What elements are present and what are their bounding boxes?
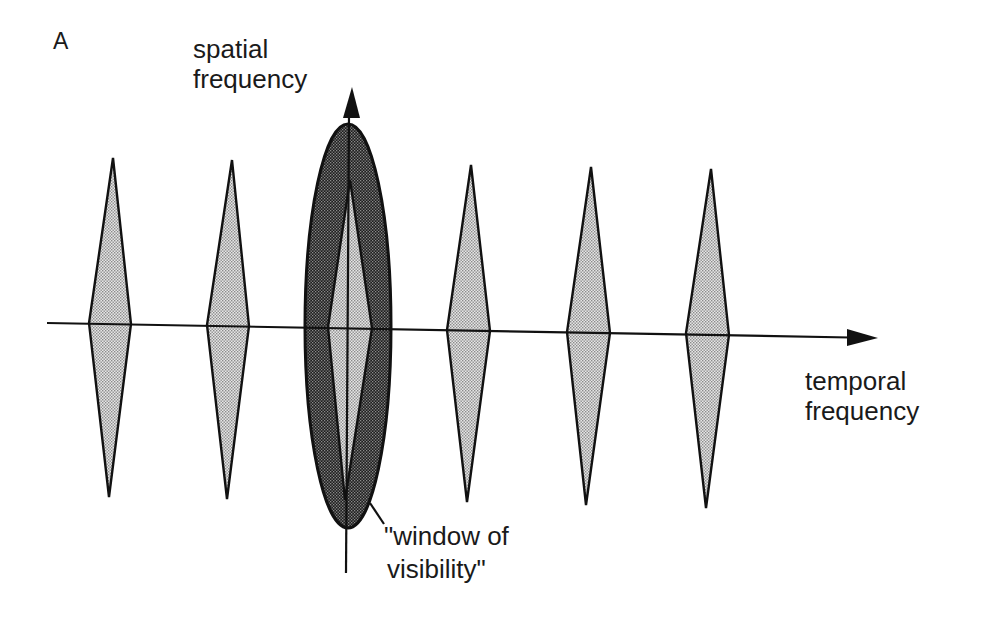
y-axis-arrowhead-icon: [343, 87, 360, 118]
x-axis-arrowhead-icon: [847, 329, 878, 346]
panel-label: A: [53, 30, 68, 53]
window-of-visibility-label: "window of visibility": [384, 520, 509, 586]
window-label-leader-line: [370, 503, 384, 524]
y-axis-label-line1: spatial: [193, 34, 307, 64]
spectral-replica-diamond: [447, 165, 490, 502]
x-axis-label-line2: frequency: [805, 396, 919, 426]
y-axis-label-line2: frequency: [193, 64, 307, 94]
x-axis-label-line1: temporal: [805, 366, 919, 396]
spectral-replica-diamond: [567, 167, 610, 505]
window-label-line1: "window of: [384, 520, 509, 553]
y-axis-label: spatial frequency: [193, 34, 307, 94]
spectral-replica-diamond: [686, 169, 729, 508]
window-label-line2: visibility": [384, 553, 509, 586]
spectral-replica-diamond: [207, 160, 249, 499]
spectral-replica-diamond: [89, 158, 131, 497]
x-axis-label: temporal frequency: [805, 366, 919, 426]
